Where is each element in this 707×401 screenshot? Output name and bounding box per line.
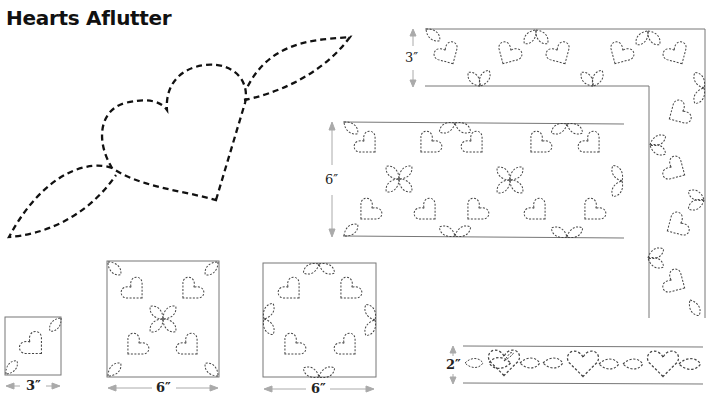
corner-border-height-label: 3″	[405, 50, 418, 65]
wreath-block-width-label: 6″	[311, 381, 326, 396]
quilting-patterns	[0, 0, 707, 401]
wide-border	[329, 119, 626, 241]
narrow-border	[450, 346, 703, 384]
corner-border	[410, 26, 707, 318]
large-heart-motif	[9, 37, 350, 237]
narrow-border-height-label: 2″	[446, 357, 461, 372]
small-block-width-label: 3″	[26, 378, 41, 393]
medium-block-width-label: 6″	[156, 380, 171, 395]
wide-border-height-label: 6″	[325, 172, 338, 187]
wreath-block	[260, 260, 379, 392]
medium-block	[105, 259, 221, 391]
